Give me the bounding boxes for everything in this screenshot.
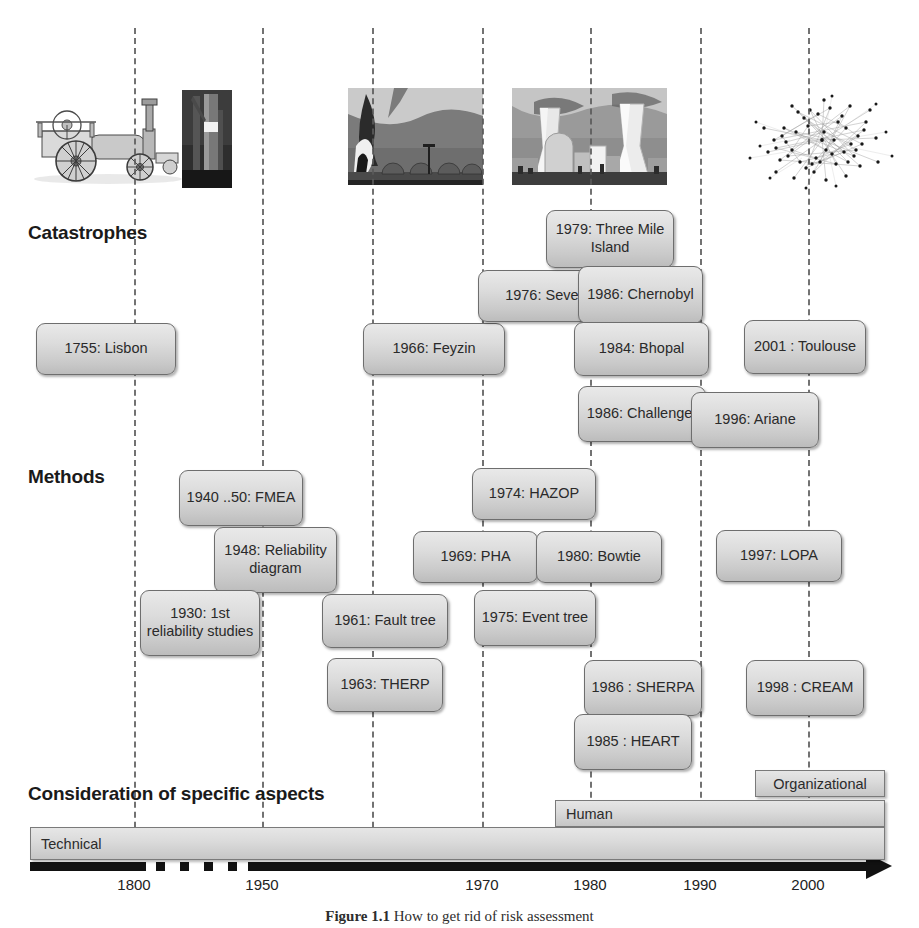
steam-engine-illustration [30, 95, 185, 185]
catastrophe-box-2001-toulouse[interactable]: 2001 : Toulouse [744, 320, 866, 374]
axis-tick-1800: 1800 [117, 876, 150, 893]
method-box-1985-heart[interactable]: 1985 : HEART [574, 714, 692, 770]
catastrophe-box-1966-feyzin[interactable]: 1966: Feyzin [363, 323, 505, 375]
aspect-bar-human[interactable]: Human [555, 800, 885, 827]
axis-tick-1990: 1990 [683, 876, 716, 893]
axis-segment-solid-right [248, 862, 868, 871]
aspect-bar-technical[interactable]: Technical [30, 827, 885, 860]
section-label-aspects: Consideration of specific aspects [28, 783, 324, 805]
catastrophe-box-1755-lisbon[interactable]: 1755: Lisbon [36, 323, 176, 375]
axis-tick-1980: 1980 [573, 876, 606, 893]
method-box-1980-bowtie[interactable]: 1980: Bowtie [536, 531, 662, 583]
axis-segment-solid-left [30, 862, 146, 871]
method-box-1948-reliability-diagram[interactable]: 1948: Reliability diagram [214, 527, 337, 593]
section-label-methods: Methods [28, 466, 105, 488]
rocket-photo [182, 90, 232, 188]
axis-dash-3 [204, 862, 213, 871]
era-line-1950 [262, 28, 264, 858]
figure-caption-label: Figure 1.1 [325, 908, 390, 924]
catastrophe-box-1979-three-mile-island[interactable]: 1979: Three Mile Island [546, 210, 674, 268]
axis-tick-2000: 2000 [791, 876, 824, 893]
axis-dash-2 [180, 862, 189, 871]
figure-canvas: Catastrophes Methods Consideration of sp… [0, 0, 919, 928]
method-box-1969-pha[interactable]: 1969: PHA [413, 531, 538, 583]
figure-caption-text: How to get rid of risk assessment [394, 908, 594, 924]
era-line-1960 [372, 28, 374, 858]
method-box-1940-50-fmea[interactable]: 1940 ..50: FMEA [179, 470, 303, 526]
catastrophe-box-1986-chernobyl[interactable]: 1986: Chernobyl [578, 266, 703, 324]
aspect-bar-organizational[interactable]: Organizational [755, 770, 885, 797]
network-graph-image [746, 92, 901, 192]
catastrophe-box-1996-ariane[interactable]: 1996: Ariane [691, 392, 819, 448]
industrial-fire-photo [348, 88, 483, 185]
axis-tick-1950: 1950 [245, 876, 278, 893]
method-box-1963-therp[interactable]: 1963: THERP [327, 658, 443, 712]
axis-dash-4 [228, 862, 237, 871]
era-line-1970 [482, 28, 484, 858]
method-box-1975-event-tree[interactable]: 1975: Event tree [474, 590, 596, 646]
figure-caption: Figure 1.1 How to get rid of risk assess… [0, 908, 919, 925]
method-box-1930-1st-reliability-studies[interactable]: 1930: 1st reliability studies [140, 590, 260, 656]
method-box-1998-cream[interactable]: 1998 : CREAM [746, 660, 864, 716]
axis-tick-1970: 1970 [465, 876, 498, 893]
method-box-1997-lopa[interactable]: 1997: LOPA [716, 530, 842, 582]
section-label-catastrophes: Catastrophes [28, 222, 147, 244]
method-box-1986-sherpa[interactable]: 1986 : SHERPA [584, 660, 702, 716]
method-box-1961-fault-tree[interactable]: 1961: Fault tree [322, 594, 448, 648]
catastrophe-box-1984-bhopal[interactable]: 1984: Bhopal [574, 322, 709, 376]
axis-dash-1 [156, 862, 165, 871]
era-line-1800 [134, 28, 136, 858]
catastrophe-box-1986-challenger[interactable]: 1986: Challenger [578, 386, 706, 442]
method-box-1974-hazop[interactable]: 1974: HAZOP [472, 468, 596, 520]
